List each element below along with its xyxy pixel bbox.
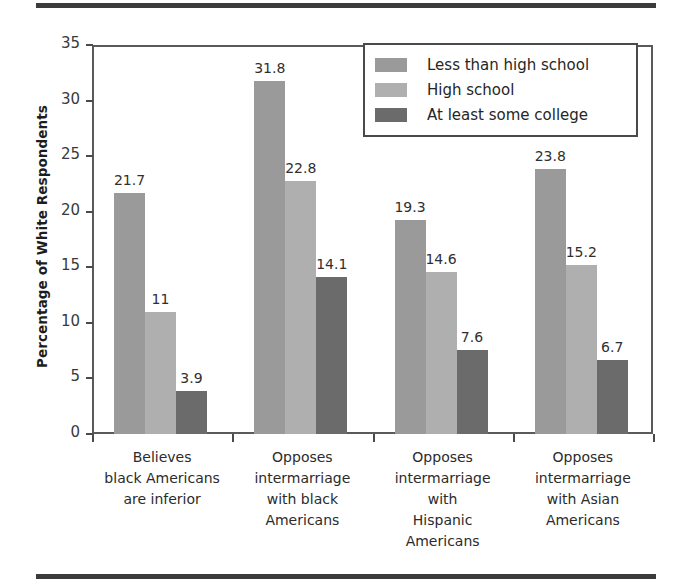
bar-value-label: 6.7: [601, 339, 623, 355]
bar[interactable]: 14.6: [426, 272, 457, 434]
bar-value-label: 14.6: [425, 251, 456, 267]
bar[interactable]: 11: [145, 312, 176, 434]
legend-swatch-icon: [375, 83, 407, 97]
category-label-line: Opposes: [232, 447, 372, 468]
y-tick-label: 20: [38, 201, 80, 219]
category-label-line: Believes: [92, 447, 232, 468]
legend-item[interactable]: Less than high school: [375, 52, 626, 77]
legend-label: Less than high school: [427, 56, 589, 74]
legend-item[interactable]: At least some college: [375, 102, 626, 127]
y-tick-label: 35: [38, 34, 80, 52]
bar[interactable]: 23.8: [535, 169, 566, 434]
legend-label: High school: [427, 81, 514, 99]
x-axis-category-label: Opposesintermarriagewith AsianAmericans: [513, 447, 653, 531]
y-tick-label: 0: [38, 423, 80, 441]
bar[interactable]: 31.8: [254, 81, 285, 434]
y-tick-label: 25: [38, 145, 80, 163]
category-label-line: Americans: [232, 510, 372, 531]
category-label-line: Americans: [513, 510, 653, 531]
bar-group: 21.7113.9: [92, 45, 232, 434]
bar-value-label: 7.6: [461, 329, 483, 345]
y-tick-label: 30: [38, 90, 80, 108]
category-label-line: intermarriage: [232, 468, 372, 489]
bar[interactable]: 6.7: [597, 360, 628, 434]
x-axis-category-label: Opposesintermarriagewith blackAmericans: [232, 447, 372, 531]
bar[interactable]: 7.6: [457, 350, 488, 434]
bar-chart-figure: Percentage of White Respondents 05101520…: [0, 18, 692, 568]
top-divider-rule: [36, 3, 656, 8]
bar-group: 31.822.814.1: [232, 45, 372, 434]
legend-item[interactable]: High school: [375, 77, 626, 102]
x-axis-tick-mark: [92, 434, 94, 442]
bar[interactable]: 22.8: [285, 181, 316, 434]
category-label-line: with black: [232, 489, 372, 510]
bottom-divider-rule: [36, 574, 656, 579]
category-label-line: Americans: [373, 531, 513, 552]
category-label-line: are inferior: [92, 489, 232, 510]
bar[interactable]: 21.7: [114, 193, 145, 434]
bar-value-label: 31.8: [254, 60, 285, 76]
x-axis-tick-mark: [513, 434, 515, 442]
category-label-line: with Asian: [513, 489, 653, 510]
legend-label: At least some college: [427, 106, 588, 124]
category-label-line: intermarriage: [373, 468, 513, 489]
category-label-line: Opposes: [513, 447, 653, 468]
bar[interactable]: 19.3: [395, 220, 426, 435]
bar-value-label: 22.8: [285, 160, 316, 176]
y-tick-label: 10: [38, 312, 80, 330]
bar-value-label: 11: [152, 291, 170, 307]
category-label-line: with: [373, 489, 513, 510]
bar-value-label: 23.8: [535, 148, 566, 164]
bar[interactable]: 15.2: [566, 265, 597, 434]
category-label-line: Hispanic: [373, 510, 513, 531]
bar-value-label: 15.2: [566, 244, 597, 260]
bar[interactable]: 14.1: [316, 277, 347, 434]
bar-value-label: 21.7: [114, 172, 145, 188]
legend-swatch-icon: [375, 108, 407, 122]
bar-value-label: 19.3: [394, 199, 425, 215]
x-axis-tick-mark: [653, 434, 655, 442]
x-axis-tick-mark: [232, 434, 234, 442]
category-label-line: black Americans: [92, 468, 232, 489]
chart-legend: Less than high school High school At lea…: [363, 43, 638, 137]
bar-value-label: 14.1: [316, 256, 347, 272]
category-label-line: Opposes: [373, 447, 513, 468]
bar[interactable]: 3.9: [176, 391, 207, 434]
y-tick-label: 5: [38, 367, 80, 385]
x-axis-category-label: Believesblack Americansare inferior: [92, 447, 232, 510]
legend-swatch-icon: [375, 58, 407, 72]
y-tick-label: 15: [38, 256, 80, 274]
x-axis-category-label: OpposesintermarriagewithHispanicAmerican…: [373, 447, 513, 552]
category-label-line: intermarriage: [513, 468, 653, 489]
x-axis-tick-mark: [373, 434, 375, 442]
bar-value-label: 3.9: [180, 370, 202, 386]
